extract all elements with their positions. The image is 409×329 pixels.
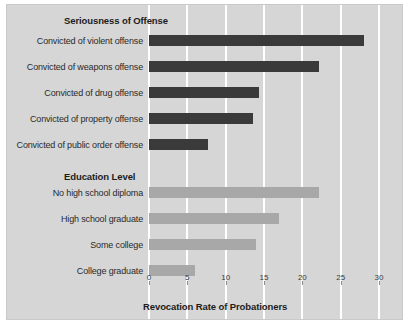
gridline-15 bbox=[263, 5, 265, 319]
category-label: Convicted of violent offense bbox=[7, 36, 143, 46]
tick-label-20: 20 bbox=[290, 273, 314, 282]
bar bbox=[149, 61, 319, 72]
tick-label-0: 0 bbox=[137, 273, 161, 282]
bar bbox=[149, 139, 208, 150]
category-label: Convicted of public order offense bbox=[7, 140, 143, 150]
bar bbox=[149, 35, 364, 46]
tick-label-15: 15 bbox=[252, 273, 276, 282]
gridline-20 bbox=[301, 5, 303, 319]
bar bbox=[149, 213, 279, 224]
group-heading-seriousness: Seriousness of Offense bbox=[64, 15, 168, 26]
bar bbox=[149, 87, 259, 98]
tick-label-25: 25 bbox=[329, 273, 353, 282]
bar bbox=[149, 239, 256, 250]
category-label: High school graduate bbox=[7, 214, 143, 224]
bar bbox=[149, 113, 253, 124]
category-label: No high school diploma bbox=[7, 188, 143, 198]
chart-figure: Seriousness of Offense Education Level C… bbox=[0, 0, 409, 329]
category-label: Convicted of property offense bbox=[7, 114, 143, 124]
gridline-30 bbox=[378, 5, 380, 319]
bar bbox=[149, 187, 319, 198]
category-label: Convicted of drug offense bbox=[7, 88, 143, 98]
plot-area: Seriousness of Offense Education Level C… bbox=[6, 4, 403, 320]
tick-label-10: 10 bbox=[214, 273, 238, 282]
category-label: Some college bbox=[7, 240, 143, 250]
category-label: Convicted of weapons offense bbox=[7, 62, 143, 72]
gridline-10 bbox=[225, 5, 227, 319]
gridline-25 bbox=[340, 5, 342, 319]
tick-label-5: 5 bbox=[175, 273, 199, 282]
group-heading-education: Education Level bbox=[64, 171, 135, 182]
x-axis-title: Revocation Rate of Probationers bbox=[143, 301, 287, 312]
tick-label-30: 30 bbox=[367, 273, 391, 282]
category-label: College graduate bbox=[7, 266, 143, 276]
